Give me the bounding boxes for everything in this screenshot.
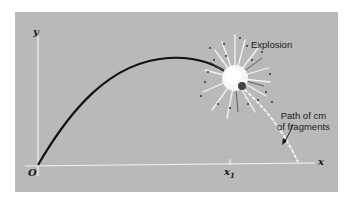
explosion-label: Explosion bbox=[251, 40, 292, 50]
diagram-canvas bbox=[0, 0, 351, 203]
x-axis bbox=[25, 163, 315, 166]
trajectory-curve bbox=[38, 58, 232, 165]
x1-label-subscript: 1 bbox=[230, 171, 235, 180]
origin-label: O bbox=[28, 168, 37, 178]
cm-path-label-line2: of fragments bbox=[277, 121, 330, 132]
cm-path-label: Path of cm of fragments bbox=[277, 110, 330, 132]
y-axis-label: y bbox=[33, 27, 39, 37]
x1-label: x1 bbox=[224, 167, 235, 179]
cm-path-label-line1: Path of cm bbox=[277, 110, 330, 121]
x-axis-label: x bbox=[318, 157, 324, 167]
